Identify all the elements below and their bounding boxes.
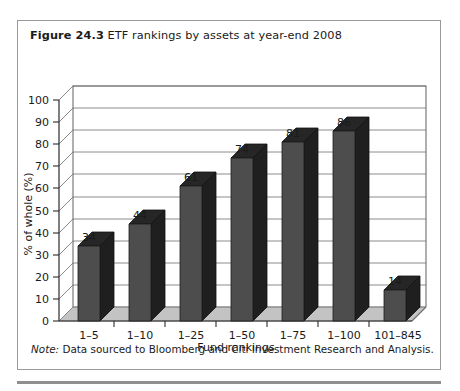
- bar-group: 86: [333, 116, 369, 321]
- chart-3d-bar: 0 10 20 30 40 50 60 70 80 90 100 % of wh…: [18, 49, 442, 339]
- y-tick-label: 70: [35, 160, 49, 173]
- x-tick-label: 1–5: [79, 329, 99, 339]
- figure-number: Figure 24.3: [30, 29, 104, 42]
- y-tick-label: 20: [35, 271, 49, 284]
- x-tick-label: 1–75: [280, 329, 307, 339]
- y-tick-label: 0: [42, 315, 49, 328]
- figure-container: Figure 24.3 ETF rankings by assets at ye…: [17, 20, 441, 370]
- bar-group: 34: [78, 231, 114, 321]
- y-tick-label: 90: [35, 116, 49, 129]
- x-tick-label: 1–25: [178, 329, 205, 339]
- figure-note: Note: Data sourced to Bloomberg and Citi…: [31, 343, 434, 355]
- bar-value-label: 81: [286, 127, 300, 140]
- figure-caption: Figure 24.3 ETF rankings by assets at ye…: [30, 29, 342, 42]
- bar-value-label: 61: [184, 171, 198, 184]
- bar-value-label: 44: [133, 209, 147, 222]
- x-tick-label: 1–50: [229, 329, 256, 339]
- y-tick-label: 50: [35, 205, 49, 218]
- y-tick-label: 100: [28, 94, 49, 107]
- bar-value-label: 74: [235, 143, 249, 156]
- x-tick-label: 101–845: [374, 329, 422, 339]
- y-tick-marks: [53, 100, 59, 321]
- figure-caption-text: ETF rankings by assets at year-end 2008: [108, 29, 342, 42]
- bar-group: 44: [129, 209, 165, 321]
- bar-group: 74: [231, 143, 267, 321]
- note-label: Note:: [31, 343, 59, 355]
- x-tick-label: 1–100: [327, 329, 361, 339]
- x-tick-marks: [114, 321, 369, 327]
- bar-group: 81: [282, 127, 318, 321]
- bar-group: 61: [180, 171, 216, 321]
- y-tick-label: 80: [35, 138, 49, 151]
- x-tick-label: 1–10: [127, 329, 154, 339]
- chart-svg: 0 10 20 30 40 50 60 70 80 90 100 % of wh…: [18, 49, 442, 339]
- page-divider-rule: [17, 381, 441, 384]
- bar-value-label: 86: [337, 116, 351, 129]
- note-text: Data sourced to Bloomberg and Citi Inves…: [62, 343, 433, 355]
- y-axis-title: % of whole (%): [22, 172, 35, 255]
- bar-value-label: 34: [82, 231, 96, 244]
- y-tick-label: 40: [35, 227, 49, 240]
- y-tick-label: 30: [35, 249, 49, 262]
- y-tick-label: 10: [35, 293, 49, 306]
- bar-value-label: 14: [388, 275, 402, 288]
- y-tick-label: 60: [35, 182, 49, 195]
